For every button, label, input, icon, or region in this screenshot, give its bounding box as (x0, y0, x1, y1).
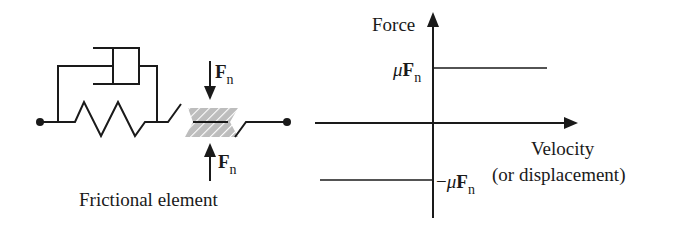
normal-force-label-bottom: Fn (218, 152, 237, 171)
force-subscript: n (414, 70, 421, 85)
mechanical-model (36, 48, 181, 136)
upper-level-label: μFn (393, 60, 421, 79)
minus-sign: − (436, 171, 447, 192)
mu-symbol: μ (447, 171, 457, 192)
x-axis-arrow-icon (564, 117, 578, 129)
force-subscript: n (230, 162, 237, 177)
force-symbol: F (218, 151, 230, 172)
mu-symbol: μ (393, 59, 403, 80)
y-axis-label: Force (372, 15, 415, 34)
parallel-frame (58, 66, 113, 122)
caption-frictional-element: Frictional element (79, 190, 218, 209)
force-symbol: F (456, 171, 468, 192)
force-subscript: n (468, 182, 475, 197)
normal-force-label-top: Fn (215, 62, 234, 81)
x-axis-label-line2: (or displacement) (492, 165, 625, 184)
lower-level-label: −μFn (436, 172, 475, 191)
y-axis-arrow-icon (427, 12, 439, 27)
x-axis-label-line1: Velocity (531, 139, 594, 158)
terminal-dot-right (283, 118, 291, 126)
normal-force-arrow-bottom (204, 143, 216, 181)
frictional-block (185, 108, 291, 137)
force-subscript: n (227, 72, 234, 87)
force-symbol: F (215, 61, 227, 82)
force-symbol: F (403, 59, 415, 80)
spring-icon (58, 102, 157, 136)
